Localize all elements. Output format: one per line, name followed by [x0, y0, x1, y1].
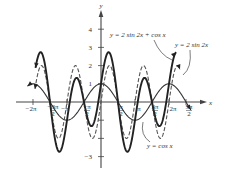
x-axis-arrow-icon — [200, 100, 207, 105]
x-tick-label: −π — [61, 105, 69, 113]
y-tick-label: 1 — [89, 80, 93, 88]
function-graph: xy4321−3−2π−3π2−π−π2π2π3π22π5π2y = 2 sin… — [0, 0, 226, 177]
leader-line — [142, 122, 150, 142]
y-axis-arrow-icon — [99, 10, 104, 17]
y-tick-label: 3 — [89, 44, 93, 52]
x-tick-label: 2π — [169, 105, 177, 113]
x-tick-label-den: 2 — [85, 110, 89, 118]
y-tick-label: 4 — [89, 26, 93, 34]
leader-line — [183, 50, 190, 75]
curve-label: y = cos x — [146, 142, 173, 150]
curve-label: y = 2 sin 2x + cos x — [109, 31, 166, 39]
x-tick-label: −2π — [26, 105, 37, 113]
curve-label: y = 2 sin 2x — [174, 41, 209, 49]
x-tick-label-den: 2 — [187, 110, 191, 118]
x-tick-label-den: 2 — [119, 110, 123, 118]
x-tick-label: π — [137, 105, 141, 113]
labels: xy4321−3−2π−3π2−π−π2π2π3π22π5π2y = 2 sin… — [26, 2, 213, 161]
x-axis-label: x — [208, 99, 213, 107]
y-tick-label: −3 — [85, 153, 93, 161]
x-tick-label-den: 2 — [51, 110, 55, 118]
x-tick-label-den: 2 — [153, 110, 157, 118]
y-tick-label: 2 — [89, 62, 93, 70]
leader-line — [154, 40, 172, 60]
curve-arrow-icon — [34, 84, 38, 89]
y-axis-label: y — [99, 2, 104, 10]
